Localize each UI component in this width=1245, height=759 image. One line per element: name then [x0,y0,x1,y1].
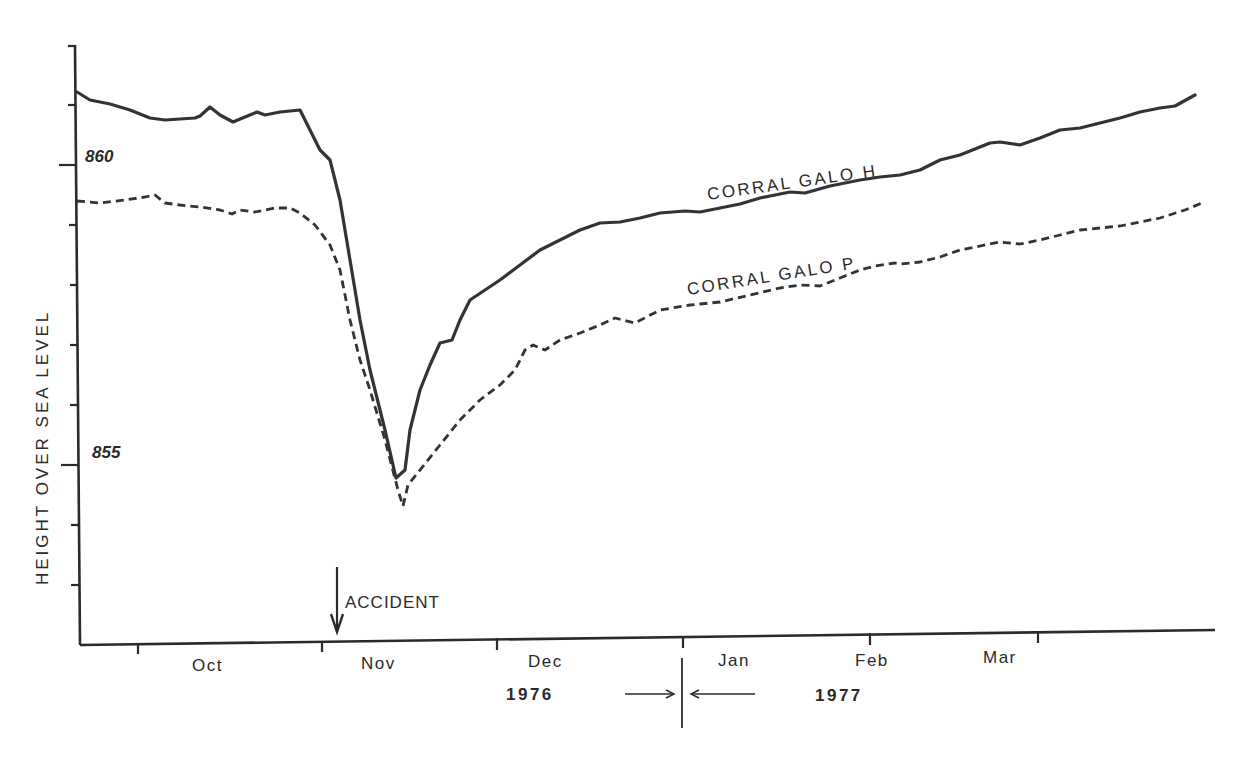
month-label-oct: Oct [192,656,223,675]
x-axis [80,630,1215,645]
month-label-feb: Feb [855,651,889,670]
series-label-corral-galo-p: CORRAL GALO P [686,253,858,298]
accident-arrow-icon [331,567,343,632]
series-corral-galo-h [77,92,1195,478]
year-label-1977: 1977 [815,686,863,705]
year-label-1976: 1976 [506,685,554,704]
y-axis-label: HEIGHT OVER SEA LEVEL [33,310,52,585]
month-label-nov: Nov [361,654,396,673]
series-corral-galo-p [77,195,1202,506]
ytick-label-855: 855 [92,443,121,462]
accident-label: ACCIDENT [345,593,440,612]
month-label-jan: Jan [718,651,750,670]
ytick-label-860: 860 [85,147,114,166]
month-label-dec: Dec [528,652,563,671]
month-label-mar: Mar [983,648,1017,667]
chart-canvas: 860 855 HEIGHT OVER SEA LEVEL Oct Nov De… [0,0,1245,759]
series-label-corral-galo-h: CORRAL GALO H [706,161,879,204]
